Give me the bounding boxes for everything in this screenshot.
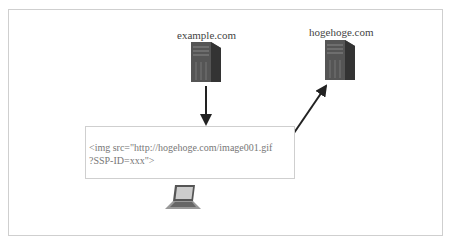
code-line-1: <img src="http://hogehoge.com/image001.g… [89,142,272,153]
laptop-icon [163,183,203,211]
img-tag-code-box: <img src="http://hogehoge.com/image001.g… [85,126,295,179]
arrows [0,0,453,245]
code-line-2: ?SSP-ID=xxx"> [89,155,154,166]
